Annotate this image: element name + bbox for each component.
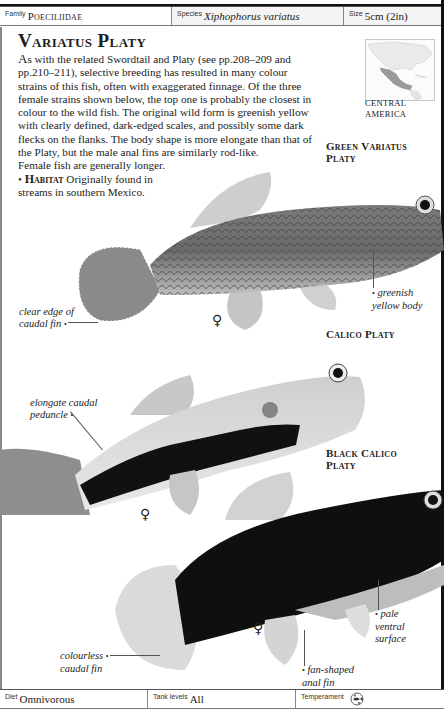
callout-pale-ventral: • pale ventral surface: [375, 608, 406, 645]
size-value: 5cm (2in): [365, 10, 408, 22]
callout-text: surface: [375, 633, 406, 645]
tank-levels-label: Tank levels: [153, 693, 188, 700]
callout-text: clear edge of: [19, 306, 74, 318]
article-paragraph: As with the related Swordtail and Platy …: [18, 52, 318, 159]
species-value: Xiphophorus variatus: [204, 10, 300, 22]
female-symbol-icon: ♀: [212, 312, 222, 328]
distribution-map: [365, 39, 435, 101]
callout-greenish-body: • greenish yellow body: [372, 287, 422, 312]
callout-text: colourless: [60, 650, 103, 661]
strain-label-line1: Green Variatus: [326, 141, 407, 153]
family-cell: Family Poeciliidae: [0, 7, 172, 25]
callout-dot: •: [302, 666, 305, 675]
callout-text: caudal fin: [19, 318, 61, 329]
strain-label-green-variatus: Green Variatus Platy: [326, 141, 407, 164]
leader-line: [373, 250, 374, 288]
footer-info-bar: Diet Omnivorous Tank levels All Temperam…: [0, 689, 444, 709]
female-symbol-icon: ♀: [253, 620, 263, 636]
tank-levels-cell: Tank levels All: [148, 690, 296, 708]
strain-label-line2: Platy: [326, 153, 407, 165]
callout-dot: •: [106, 652, 109, 661]
callout-text: pale: [380, 608, 398, 619]
map-caption-line1: CENTRAL: [365, 98, 406, 109]
callout-text: caudal fin: [60, 663, 109, 675]
callout-clear-edge: clear edge of caudal fin •: [19, 306, 74, 331]
size-cell: Size 5cm (2in): [344, 7, 444, 25]
callout-text: yellow body: [372, 300, 422, 312]
black-calico-platy-image: [115, 470, 444, 685]
page-title: Variatus Platy: [18, 30, 146, 52]
temperament-label: Temperament: [301, 693, 344, 700]
callout-text: anal fin: [302, 677, 354, 689]
header-info-bar: Family Poeciliidae Species Xiphophorus v…: [0, 6, 444, 26]
callout-elongate-peduncle: elongate caudal peduncle •: [30, 397, 97, 422]
species-cell: Species Xiphophorus variatus: [172, 7, 344, 25]
callout-fan-shaped-anal-fin: • fan-shaped anal fin: [302, 664, 354, 689]
callout-text: ventral: [375, 621, 406, 633]
habitat-bullet: •: [18, 173, 22, 185]
diet-cell: Diet Omnivorous: [0, 690, 148, 708]
drop-cap: A: [18, 51, 27, 66]
leader-line: [378, 580, 379, 610]
species-label: Species: [177, 10, 202, 17]
female-symbol-icon: ♀: [140, 506, 150, 522]
size-label: Size: [349, 10, 363, 17]
temperament-cell: Temperament: [296, 690, 444, 708]
callout-text: elongate caudal: [30, 397, 97, 409]
habitat-label: Habitat: [25, 172, 64, 186]
callout-text: peduncle: [30, 409, 68, 420]
diet-label: Diet: [5, 693, 17, 700]
map-caption-line2: AMERICA: [365, 109, 406, 120]
leader-line: [68, 322, 98, 323]
leader-line: [110, 655, 160, 656]
map-icon: [366, 40, 435, 101]
callout-text: fan-shaped: [307, 664, 354, 675]
callout-colourless-fin: colourless • caudal fin: [60, 650, 109, 675]
family-label: Family: [5, 10, 26, 17]
leader-line: [304, 630, 305, 666]
diet-value: Omnivorous: [19, 693, 74, 705]
callout-dot: •: [64, 320, 67, 329]
tank-levels-value: All: [190, 693, 204, 705]
callout-text: greenish: [377, 287, 413, 298]
map-caption: CENTRAL AMERICA: [365, 98, 406, 120]
callout-dot: •: [375, 610, 378, 619]
peaceful-fish-icon: [350, 692, 364, 706]
article-text: s with the related Swordtail and Platy (…: [18, 53, 312, 158]
family-value: Poeciliidae: [28, 10, 83, 22]
callout-dot: •: [372, 289, 375, 298]
